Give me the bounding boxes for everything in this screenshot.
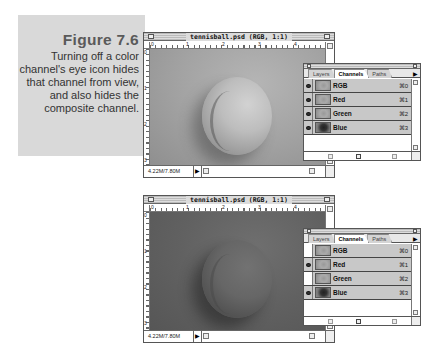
channel-shortcut: ⌘0 xyxy=(399,82,411,89)
palette-menu-arrow-icon[interactable]: ▶ xyxy=(413,235,418,242)
ruler-label: 4 xyxy=(294,41,297,47)
channels-palette-bottom[interactable]: Layers Channels Paths ▶ RGB ⌘0 Red ⌘1 Gr… xyxy=(303,228,421,326)
palette-close-icon[interactable] xyxy=(307,229,311,233)
ruler-label: 4 xyxy=(294,204,297,210)
document-size[interactable]: 4.22M/7.80M xyxy=(144,166,194,177)
channel-name: RGB xyxy=(333,247,399,254)
ruler-label: 0 xyxy=(144,212,147,218)
figure-caption: Figure 7.6 Turning off a color channel's… xyxy=(18,15,145,156)
scroll-left-arrow-icon[interactable] xyxy=(203,333,209,339)
horizontal-ruler[interactable]: 0 1 2 3 4 xyxy=(150,42,325,49)
new-channel-icon[interactable] xyxy=(356,319,361,324)
scroll-left-arrow-icon[interactable] xyxy=(203,168,209,174)
scroll-up-arrow-icon[interactable] xyxy=(327,206,333,212)
channel-shortcut: ⌘0 xyxy=(399,247,411,254)
scroll-up-arrow-icon[interactable] xyxy=(327,43,333,49)
channel-shortcut: ⌘2 xyxy=(399,110,411,117)
close-box-icon[interactable] xyxy=(148,34,154,39)
channel-thumbnail xyxy=(315,108,331,119)
channel-row-green[interactable]: Green ⌘2 xyxy=(304,272,411,286)
status-menu-arrow-icon[interactable]: ▶ xyxy=(194,166,202,177)
channels-palette-top[interactable]: Layers Channels Paths ▶ RGB ⌘0 Red ⌘1 Gr… xyxy=(303,63,421,161)
horizontal-ruler[interactable]: 0 1 2 3 4 xyxy=(150,205,325,212)
eye-icon-hidden[interactable] xyxy=(304,244,313,257)
channel-shortcut: ⌘3 xyxy=(399,289,411,296)
channel-shortcut: ⌘2 xyxy=(399,275,411,282)
tab-paths[interactable]: Paths xyxy=(367,69,392,78)
eye-icon[interactable] xyxy=(304,121,313,134)
channel-thumbnail xyxy=(315,259,331,270)
scroll-right-arrow-icon[interactable] xyxy=(309,168,315,174)
zoom-box-icon[interactable] xyxy=(324,197,330,202)
palette-zoom-icon[interactable] xyxy=(413,64,417,68)
status-menu-arrow-icon[interactable]: ▶ xyxy=(194,331,202,342)
channel-shortcut: ⌘3 xyxy=(399,124,411,131)
palette-menu-arrow-icon[interactable]: ▶ xyxy=(413,70,418,77)
eye-icon[interactable] xyxy=(304,93,313,106)
ruler-label: 0 xyxy=(151,204,154,210)
window-title: tennisball.psd (RGB, 1:1) xyxy=(186,196,292,204)
load-selection-icon[interactable] xyxy=(328,319,333,324)
eye-icon[interactable] xyxy=(304,79,313,92)
ruler-label: 2 xyxy=(144,121,147,127)
document-size[interactable]: 4.22M/7.80M xyxy=(144,331,194,342)
channel-row-blue[interactable]: Blue ⌘3 xyxy=(304,286,411,300)
resize-grip-icon[interactable] xyxy=(325,166,334,177)
tab-layers[interactable]: Layers xyxy=(308,234,336,243)
figure-title: Figure 7.6 xyxy=(18,31,139,48)
horizontal-scrollbar[interactable] xyxy=(202,331,325,342)
palette-scrollbar[interactable] xyxy=(411,244,420,316)
palette-footer xyxy=(304,151,420,160)
window-titlebar[interactable]: tennisball.psd (RGB, 1:1) xyxy=(144,196,334,204)
scroll-up-arrow-icon[interactable] xyxy=(413,245,418,250)
palette-resize-grip-icon[interactable] xyxy=(411,152,420,160)
scroll-right-arrow-icon[interactable] xyxy=(309,333,315,339)
scroll-down-arrow-icon[interactable] xyxy=(413,145,418,150)
eye-icon[interactable] xyxy=(304,107,313,120)
scroll-up-arrow-icon[interactable] xyxy=(413,80,418,85)
channel-row-red[interactable]: Red ⌘1 xyxy=(304,258,411,272)
scroll-down-arrow-icon[interactable] xyxy=(413,310,418,315)
tab-paths[interactable]: Paths xyxy=(367,234,392,243)
new-channel-icon[interactable] xyxy=(356,154,361,159)
palette-scrollbar[interactable] xyxy=(411,79,420,151)
window-title: tennisball.psd (RGB, 1:1) xyxy=(186,33,292,41)
ruler-label: 1 xyxy=(186,204,189,210)
figure-text: Turning off a color channel's eye icon h… xyxy=(18,50,139,115)
ruler-label: 1 xyxy=(144,85,147,91)
load-selection-icon[interactable] xyxy=(328,154,333,159)
channel-name: Blue xyxy=(333,289,399,296)
ruler-label: 0 xyxy=(144,49,147,55)
palette-resize-grip-icon[interactable] xyxy=(411,317,420,325)
trash-icon[interactable] xyxy=(392,154,397,159)
eye-icon[interactable] xyxy=(304,258,313,271)
eye-icon[interactable] xyxy=(304,286,313,299)
tab-channels[interactable]: Channels xyxy=(334,69,370,78)
ruler-label: 3 xyxy=(144,157,147,163)
image-canvas[interactable] xyxy=(150,212,325,330)
channel-row-red[interactable]: Red ⌘1 xyxy=(304,93,411,107)
channel-row-blue[interactable]: Blue ⌘3 xyxy=(304,121,411,135)
channel-row-rgb[interactable]: RGB ⌘0 xyxy=(304,79,411,93)
channel-thumbnail xyxy=(315,287,331,298)
image-canvas[interactable] xyxy=(150,49,325,165)
ruler-label: 2 xyxy=(222,41,225,47)
tab-channels[interactable]: Channels xyxy=(334,234,370,243)
close-box-icon[interactable] xyxy=(148,197,154,202)
horizontal-scrollbar[interactable] xyxy=(202,166,325,177)
channel-name: RGB xyxy=(333,82,399,89)
palette-footer xyxy=(304,316,420,325)
ruler-label: 3 xyxy=(258,41,261,47)
tab-layers[interactable]: Layers xyxy=(308,69,336,78)
resize-grip-icon[interactable] xyxy=(325,331,334,342)
zoom-box-icon[interactable] xyxy=(324,34,330,39)
channel-list: RGB ⌘0 Red ⌘1 Green ⌘2 Blue ⌘3 xyxy=(304,244,411,300)
palette-close-icon[interactable] xyxy=(307,64,311,68)
eye-icon-hidden[interactable] xyxy=(304,272,313,285)
trash-icon[interactable] xyxy=(392,319,397,324)
channel-name: Red xyxy=(333,261,399,268)
channel-row-rgb[interactable]: RGB ⌘0 xyxy=(304,244,411,258)
palette-zoom-icon[interactable] xyxy=(413,229,417,233)
window-titlebar[interactable]: tennisball.psd (RGB, 1:1) xyxy=(144,33,334,41)
channel-row-green[interactable]: Green ⌘2 xyxy=(304,107,411,121)
